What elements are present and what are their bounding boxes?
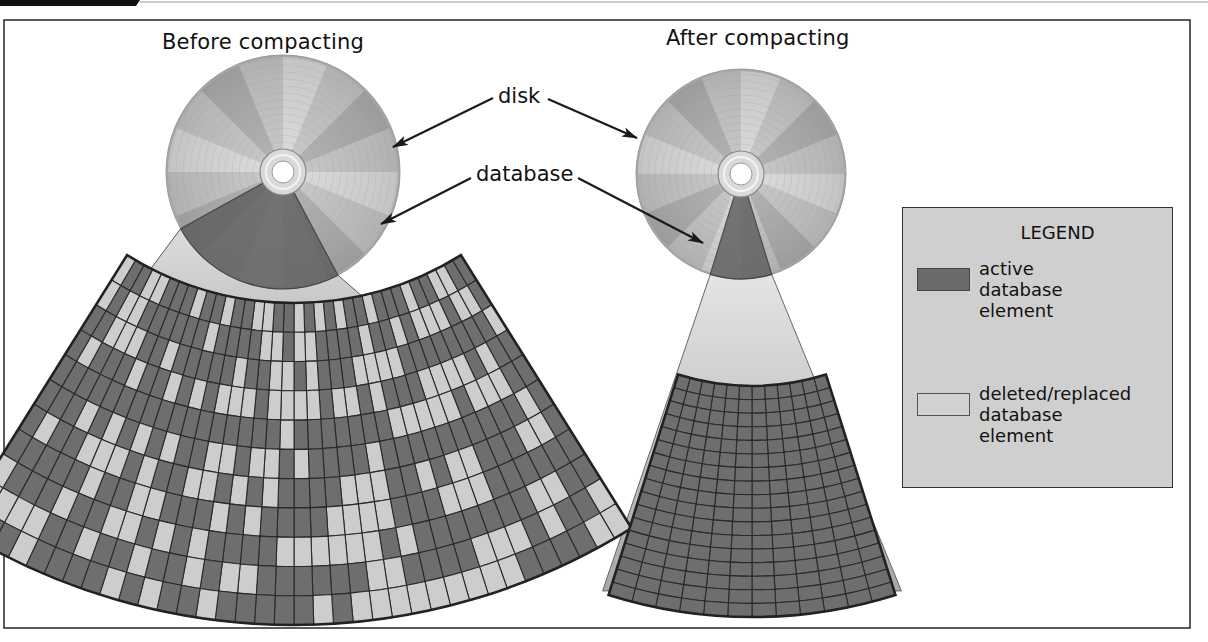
active-element-cell (265, 419, 280, 449)
active-element-cell (319, 389, 334, 419)
active-element-cell (716, 479, 735, 494)
legend-item-active: active database element (917, 258, 1164, 321)
active-element-cell (330, 564, 351, 595)
active-element-cell (709, 547, 731, 562)
active-element-cell (738, 399, 752, 413)
active-element-cell (307, 419, 322, 449)
disk-after (636, 69, 846, 279)
active-element-cell (705, 587, 729, 602)
active-element-cell (260, 507, 278, 537)
active-element-cell (317, 360, 331, 390)
active-element-cell (767, 439, 784, 454)
active-element-cell (778, 397, 793, 412)
active-element-cell (700, 464, 719, 480)
deleted-element-cell (305, 332, 317, 362)
active-element-cell (752, 535, 773, 549)
active-element-cell (710, 397, 725, 412)
active-element-cell (774, 560, 797, 575)
active-element-cell (771, 506, 791, 521)
active-element-cell (235, 593, 257, 624)
active-element-cell (294, 595, 314, 625)
deleted-element-cell (313, 595, 334, 625)
deleted-element-cell (262, 478, 279, 508)
active-element-cell (294, 566, 313, 596)
top-tab-decoration (0, 0, 140, 6)
disk-label: disk (498, 84, 540, 108)
legend-label-active: active database element (979, 258, 1164, 321)
deleted-element-cell (294, 537, 312, 567)
deleted-element-cell (281, 391, 294, 420)
active-element-cell (771, 520, 792, 535)
active-element-cell (735, 454, 752, 468)
active-element-cell (752, 562, 774, 576)
active-element-cell (773, 547, 795, 562)
active-element-cell (781, 423, 798, 438)
active-element-cell (304, 302, 316, 332)
active-element-cell (775, 587, 799, 602)
active-element-cell (752, 576, 775, 590)
active-element-cell (323, 447, 340, 477)
active-element-cell (728, 589, 752, 603)
active-element-cell (719, 452, 736, 467)
active-element-cell (717, 466, 735, 481)
active-element-cell (785, 464, 804, 480)
active-element-cell (310, 507, 328, 537)
active-element-cell (702, 450, 720, 466)
deleted-element-cell (276, 537, 294, 567)
active-element-cell (752, 549, 774, 563)
active-element-cell (708, 410, 724, 425)
active-element-cell (770, 493, 789, 508)
active-element-cell (735, 467, 752, 481)
active-element-cell (752, 440, 768, 454)
active-element-cell (712, 520, 733, 535)
deleted-element-cell (342, 504, 362, 535)
deleted-element-cell (326, 506, 345, 536)
legend-box: LEGEND active database element deleted/r… (902, 207, 1173, 488)
active-element-cell (739, 386, 752, 400)
active-element-cell (324, 477, 342, 507)
deleted-element-cell (294, 449, 309, 478)
active-element-cell (730, 549, 752, 563)
active-element-cell (715, 493, 734, 508)
legend-item-deleted: deleted/replaced database element (917, 383, 1164, 446)
active-element-cell (321, 418, 337, 448)
active-element-cell (713, 506, 733, 521)
active-element-cell (726, 385, 740, 400)
active-element-cell (733, 494, 752, 508)
active-element-cell (732, 521, 752, 535)
active-element-cell (765, 398, 780, 413)
active-element-cell (752, 467, 769, 481)
active-element-cell (283, 303, 294, 332)
active-element-cell (294, 478, 310, 508)
active-element-cell (752, 386, 765, 400)
active-element-cell (294, 420, 308, 449)
active-element-cell (733, 508, 752, 522)
active-element-cell (784, 450, 802, 466)
active-element-cell (772, 533, 793, 548)
active-element-cell (783, 437, 800, 452)
active-element-cell (780, 410, 796, 425)
diagram-canvas: Before compacting After compacting disk … (0, 0, 1208, 642)
active-element-cell (728, 603, 752, 617)
deleted-element-cell (345, 533, 366, 564)
active-element-cell (752, 494, 771, 508)
active-element-cell (706, 423, 723, 438)
deleted-element-cell (280, 420, 294, 449)
deleted-element-cell (306, 361, 319, 391)
before-compacting-title: Before compacting (162, 30, 364, 54)
active-element-cell (294, 361, 306, 390)
active-element-cell (723, 412, 738, 427)
active-element-cell (752, 589, 776, 603)
deleted-element-cell (328, 535, 348, 566)
deleted-element-cell (267, 390, 281, 420)
active-element-cell (710, 533, 731, 548)
active-element-cell (730, 562, 752, 576)
active-element-cell (720, 439, 737, 454)
active-element-cell (752, 399, 766, 413)
active-element-cell (240, 535, 260, 566)
active-element-cell (736, 440, 752, 454)
deleted-element-cell (294, 332, 306, 361)
deleted-element-cell (306, 390, 320, 420)
active-element-cell (275, 566, 294, 596)
deleted-element-cell (350, 591, 372, 622)
